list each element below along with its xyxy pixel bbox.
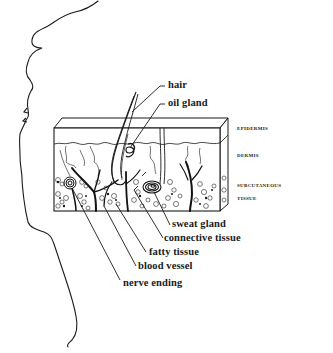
label-sweat-gland: sweat gland [172, 219, 226, 230]
skin-block-side [220, 118, 228, 211]
label-nerve-ending: nerve ending [123, 278, 182, 289]
label-blood-vessel: blood vessel [138, 261, 193, 272]
label-fatty-tissue: fatty tissue [149, 247, 199, 258]
skin-block-top [54, 118, 228, 128]
label-oil-gland: oil gland [168, 98, 208, 109]
skin-diagram-drawing [0, 0, 333, 353]
sweat-gland-coil [143, 181, 161, 193]
label-epidermis: Epidermis [237, 124, 268, 132]
label-tissue: Tissue [237, 194, 257, 202]
label-hair: hair [168, 80, 187, 91]
label-connective-tissue: connective tissue [164, 233, 241, 244]
label-dermis: Dermis [237, 151, 259, 159]
label-subcutaneous: Subcutaneous [237, 181, 281, 189]
